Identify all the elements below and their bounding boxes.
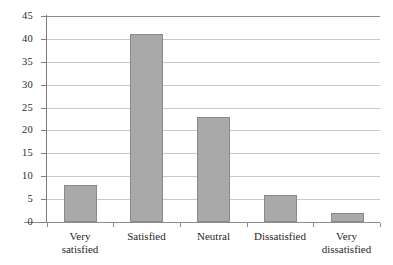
bar-neutral <box>197 117 230 222</box>
bar-dissatisfied <box>264 195 297 222</box>
x-label-very-satisfied: Very satisfied <box>47 230 113 256</box>
bar-very-satisfied <box>64 185 97 222</box>
y-tick-label-25: 25 <box>7 103 33 114</box>
y-axis-line <box>46 15 47 223</box>
gridline-35 <box>47 62 380 63</box>
y-tick-label-10: 10 <box>7 171 33 182</box>
x-tick-4 <box>313 223 314 227</box>
x-tick-1 <box>113 223 114 227</box>
x-label-dissatisfied: Dissatisfied <box>245 230 315 243</box>
bar-chart: 45 40 35 30 25 20 15 10 5 0 Very satisfi… <box>0 0 393 265</box>
x-tick-2 <box>180 223 181 227</box>
y-tick-label-30: 30 <box>7 80 33 91</box>
y-tick-40 <box>41 39 46 40</box>
x-label-line1: Very <box>70 230 91 242</box>
gridline-30 <box>47 85 380 86</box>
y-tick-10 <box>41 176 46 177</box>
y-tick-0 <box>41 222 46 223</box>
x-tick-0 <box>47 223 48 227</box>
y-tick-45 <box>41 16 46 17</box>
x-tick-5 <box>380 223 381 227</box>
gridline-25 <box>47 108 380 109</box>
x-tick-3 <box>247 223 248 227</box>
plot-area <box>47 16 380 222</box>
y-tick-label-35: 35 <box>7 57 33 68</box>
gridline-40 <box>47 39 380 40</box>
gridline-45 <box>47 16 380 17</box>
x-label-line2: satisfied <box>47 243 113 256</box>
x-label-line1: Very <box>336 230 357 242</box>
y-tick-label-20: 20 <box>7 125 33 136</box>
x-label-very-dissatisfied: Very dissatisfied <box>311 230 382 256</box>
y-tick-35 <box>41 62 46 63</box>
x-label-line1: Dissatisfied <box>254 230 306 242</box>
y-tick-15 <box>41 153 46 154</box>
y-tick-20 <box>41 130 46 131</box>
x-label-neutral: Neutral <box>180 230 247 243</box>
y-tick-label-5: 5 <box>7 194 33 205</box>
y-tick-label-45: 45 <box>7 11 33 22</box>
x-label-line1: Neutral <box>197 230 230 242</box>
y-tick-30 <box>41 85 46 86</box>
x-label-line1: Satisfied <box>127 230 166 242</box>
x-label-line2: dissatisfied <box>311 243 382 256</box>
bar-very-dissatisfied <box>331 213 364 222</box>
bar-satisfied <box>130 34 163 222</box>
y-tick-5 <box>41 199 46 200</box>
y-tick-25 <box>41 108 46 109</box>
y-tick-label-0: 0 <box>7 217 33 228</box>
x-label-satisfied: Satisfied <box>113 230 180 243</box>
y-tick-label-15: 15 <box>7 148 33 159</box>
y-tick-label-40: 40 <box>7 34 33 45</box>
x-axis-line <box>24 222 380 223</box>
